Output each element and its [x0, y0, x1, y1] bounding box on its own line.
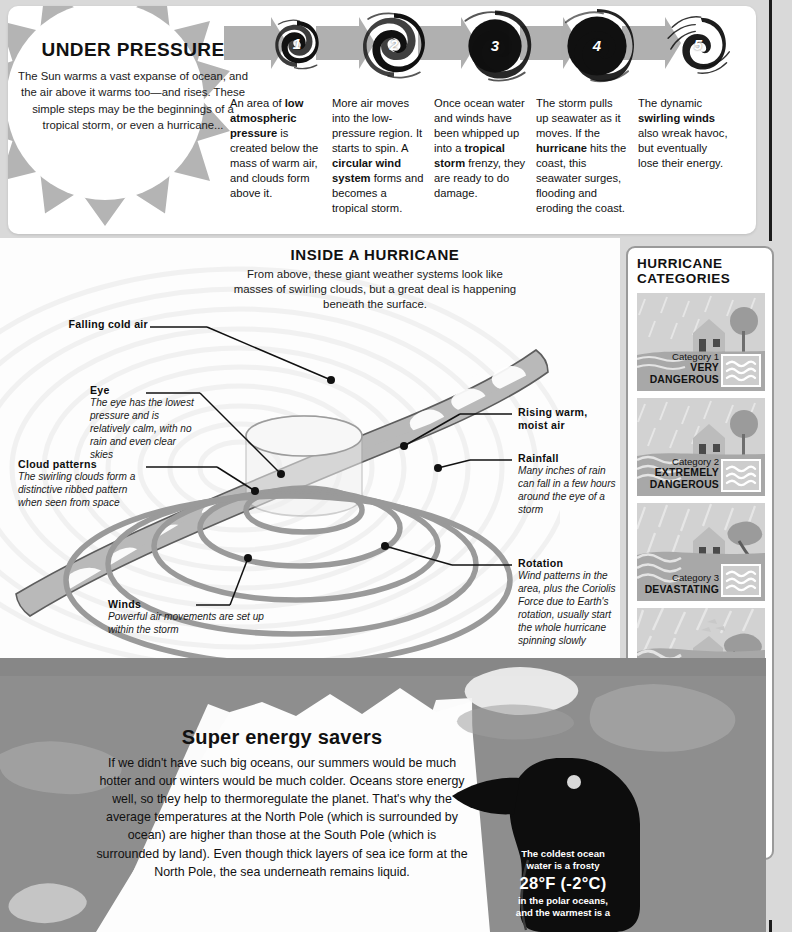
energy-title: Super energy savers	[96, 726, 468, 749]
stage-number-4: 4	[560, 37, 634, 54]
annotation-title: Rising warm, moist air	[518, 406, 610, 431]
page-title: UNDER PRESSURE	[18, 40, 248, 60]
under-pressure-panel: UNDER PRESSURE The Sun warms a vast expa…	[8, 6, 756, 234]
stage-arrow-1	[224, 26, 272, 60]
annotation-eye: Eye The eye has the lowest pressure and …	[90, 384, 198, 462]
stage-number-5: 5	[664, 36, 732, 53]
stage-description-1: An area of low atmospheric pressure is c…	[230, 96, 322, 201]
annotation-description: The swirling clouds form a distinctive r…	[18, 471, 144, 510]
annotation-description: Many inches of rain can fall in a few ho…	[518, 465, 616, 517]
category-number: Category 1	[637, 352, 719, 363]
category-card-1[interactable]: Category 1 VERY DANGEROUS	[637, 293, 765, 391]
annotation-title: Cloud patterns	[18, 458, 144, 470]
cyclone-icon-5: 5	[664, 10, 732, 80]
category-card-3[interactable]: Category 3 DEVASTATING	[637, 503, 765, 601]
annotation-title: Rotation	[518, 557, 618, 569]
page-gutter-rule-bottom	[769, 920, 772, 932]
super-energy-savers-panel: Super energy savers If we didn't have su…	[0, 658, 766, 932]
penguin-callout: The coldest ocean water is a frosty 28°F…	[497, 848, 629, 919]
annotation-title: Rainfall	[518, 452, 616, 464]
annotation-cloud-patterns: Cloud patterns The swirling clouds form …	[18, 458, 144, 510]
stage-number-1: 1	[266, 35, 328, 52]
stage-number-3: 3	[458, 37, 532, 54]
callout-temperature: 28°F (-2°C)	[497, 873, 629, 894]
callout-line-4: and the warmest is a	[497, 907, 629, 919]
category-card-2[interactable]: Category 2 EXTREMELY DANGEROUS	[637, 398, 765, 496]
cyclone-icon-1: 1	[266, 12, 328, 76]
category-severity: VERY DANGEROUS	[637, 362, 719, 386]
stage-description-4: The storm pulls up seawater as it moves.…	[536, 96, 628, 216]
page-gutter-rule-top	[769, 0, 772, 241]
cyclone-icon-2: 2	[358, 8, 430, 82]
storm-stage-icons: 1 2	[224, 8, 754, 94]
annotation-description: Powerful air movements are set up within…	[108, 611, 268, 637]
category-labels: Category 2 EXTREMELY DANGEROUS	[637, 457, 719, 492]
categories-title: HURRICANE CATEGORIES	[637, 257, 763, 286]
annotation-title: Eye	[90, 384, 198, 396]
wave-badge-icon	[721, 459, 761, 492]
annotation-description: The eye has the lowest pressure and is r…	[90, 397, 198, 462]
annotation-title: Falling cold air	[20, 318, 148, 330]
callout-line-3: in the polar oceans,	[497, 895, 629, 907]
annotation-rainfall: Rainfall Many inches of rain can fall in…	[518, 452, 616, 517]
energy-text-block: Super energy savers If we didn't have su…	[96, 726, 468, 881]
annotation-rotation: Rotation Wind patterns in the area, plus…	[518, 557, 618, 647]
cyclone-icon-4: 4	[560, 8, 634, 84]
stage-description-2: More air moves into the low-pressure reg…	[332, 96, 424, 216]
annotation-winds: Winds Powerful air movements are set up …	[108, 598, 268, 637]
callout-line-1: The coldest ocean	[497, 848, 629, 860]
stage-description-3: Once ocean water and winds have been whi…	[434, 96, 526, 201]
category-number: Category 3	[645, 573, 719, 584]
storm-stage-descriptions: An area of low atmospheric pressure is c…	[230, 96, 754, 228]
cyclone-icon-3: 3	[458, 8, 532, 84]
stage-description-5: The dynamic swirling winds also wreak ha…	[638, 96, 730, 171]
annotation-title: Winds	[108, 598, 268, 610]
wave-badge-icon	[721, 354, 761, 387]
stage-number-2: 2	[358, 36, 430, 53]
annotation-description: Wind patterns in the area, plus the Cori…	[518, 570, 618, 647]
infographic-page: UNDER PRESSURE The Sun warms a vast expa…	[0, 0, 792, 932]
annotation-rising-warm-moist-air: Rising warm, moist air	[518, 406, 610, 431]
intro-text-block: UNDER PRESSURE The Sun warms a vast expa…	[18, 40, 248, 133]
category-severity: DEVASTATING	[645, 584, 719, 596]
wave-badge-icon	[721, 564, 761, 597]
category-labels: Category 3 DEVASTATING	[645, 573, 719, 596]
category-number: Category 2	[637, 457, 719, 468]
category-labels: Category 1 VERY DANGEROUS	[637, 352, 719, 387]
category-severity: EXTREMELY DANGEROUS	[637, 467, 719, 491]
annotation-falling-cold-air: Falling cold air	[20, 318, 148, 330]
callout-line-2: water is a frosty	[497, 860, 629, 872]
intro-body: The Sun warms a vast expanse of ocean, a…	[18, 68, 248, 134]
inside-hurricane-panel: INSIDE A HURRICANE From above, these gia…	[0, 238, 620, 658]
energy-body: If we didn't have such big oceans, our s…	[96, 754, 468, 881]
